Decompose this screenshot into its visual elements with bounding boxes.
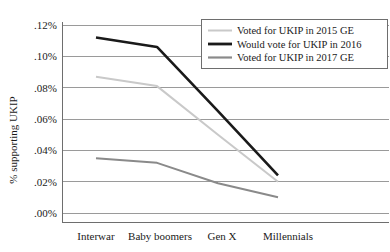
y-tick-label: .02%: [34, 176, 57, 188]
legend-label-2017: Voted for UKIP in 2017 GE: [237, 52, 354, 63]
y-tick-label: .10%: [34, 50, 57, 62]
legend-label-2015: Voted for UKIP in 2015 GE: [237, 25, 354, 36]
line-chart: % supporting UKIP .12% .10% .08% .06% .0…: [0, 0, 390, 252]
x-tick-label-interwar: Interwar: [77, 230, 115, 242]
x-tick-label-baby-boomers: Baby boomers: [128, 230, 192, 242]
y-tick-label: .04%: [34, 144, 57, 156]
x-tick-labels: Interwar Baby boomers Gen X Millennials: [77, 230, 313, 242]
series-line-2: [96, 158, 278, 197]
chart-container: % supporting UKIP .12% .10% .08% .06% .0…: [0, 0, 390, 252]
y-tick-label: .00%: [34, 207, 57, 219]
legend-label-2016: Would vote for UKIP in 2016: [237, 39, 361, 50]
y-tick-label: .12%: [34, 19, 57, 31]
y-axis-title: % supporting UKIP: [7, 96, 19, 183]
chart-legend: Voted for UKIP in 2015 GE Would vote for…: [202, 20, 388, 69]
y-tick-label: .06%: [34, 113, 57, 125]
y-tick-label: .08%: [34, 82, 57, 94]
x-tick-label-gen-x: Gen X: [207, 230, 236, 242]
y-tick-labels: .12% .10% .08% .06% .04% .02% .00%: [34, 19, 57, 219]
x-tick-label-millennials: Millennials: [263, 230, 313, 242]
series-line-0: [96, 77, 278, 182]
y-axis-title-group: % supporting UKIP: [7, 96, 19, 183]
